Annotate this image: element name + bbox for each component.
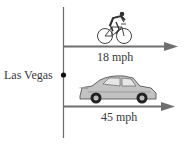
distance-diagram: Las Vegas 18 mph 45 mph — [0, 0, 186, 149]
bicycle-icon — [98, 12, 132, 44]
bicycle-speed-label: 18 mph — [97, 51, 133, 63]
car-speed-label: 45 mph — [101, 111, 137, 123]
origin-label: Las Vegas — [4, 69, 53, 81]
car-icon — [78, 76, 156, 104]
origin-dot — [61, 72, 66, 77]
